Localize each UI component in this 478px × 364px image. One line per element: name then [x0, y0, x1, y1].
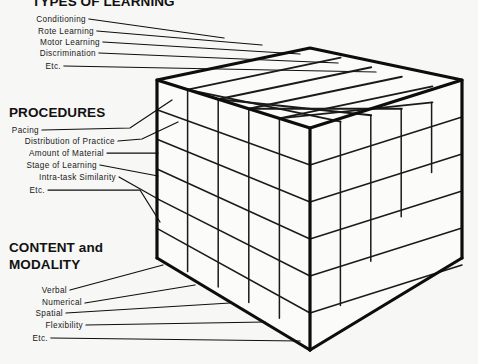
leader-line-numerical: [85, 285, 195, 303]
leader-line-intra-task-similarity: [119, 177, 158, 199]
heading-procedures: PROCEDURES: [9, 105, 105, 120]
leader-line-flexibility: [86, 322, 265, 325]
label-procedures-etc: Etc.: [29, 186, 45, 195]
label-flexibility: Flexibility: [45, 321, 83, 330]
label-distribution-of-practice: Distribution of Practice: [25, 137, 115, 146]
heading-content-and-modality-line1: CONTENT and: [9, 240, 103, 255]
labels-types-of-learning: Conditioning Rote Learning Motor Learnin…: [36, 15, 100, 71]
cube-taxonomy-diagram: TYPES OF LEARNING PROCEDURES CONTENT and…: [0, 0, 478, 364]
figure-canvas: TYPES OF LEARNING PROCEDURES CONTENT and…: [0, 0, 478, 364]
leader-line-procedures-etc: [48, 190, 160, 222]
leader-line-motor-learning: [103, 42, 300, 54]
label-pacing: Pacing: [12, 126, 39, 135]
label-stage-of-learning: Stage of Learning: [26, 161, 97, 170]
leader-line-verbal: [70, 265, 163, 290]
leader-line-conditioning: [89, 19, 224, 38]
label-rote-learning: Rote Learning: [38, 27, 94, 36]
label-content-etc: Etc.: [32, 334, 48, 343]
label-conditioning: Conditioning: [36, 15, 86, 24]
label-types-etc: Etc.: [45, 62, 61, 71]
leader-line-content-etc: [51, 338, 300, 341]
heading-content-and-modality-line2: MODALITY: [9, 257, 80, 272]
label-verbal: Verbal: [42, 286, 67, 295]
label-spatial: Spatial: [36, 309, 63, 318]
heading-types-of-learning: TYPES OF LEARNING: [32, 0, 175, 9]
label-motor-learning: Motor Learning: [40, 38, 100, 47]
label-amount-of-material: Amount of Material: [29, 149, 104, 158]
label-discrimination: Discrimination: [40, 49, 96, 58]
leader-line-spatial: [66, 303, 230, 313]
labels-procedures: Pacing Distribution of Practice Amount o…: [12, 126, 117, 195]
label-intra-task-similarity: Intra-task Similarity: [39, 173, 117, 182]
label-numerical: Numerical: [42, 298, 82, 307]
labels-content-modality: Verbal Numerical Spatial Flexibility Etc…: [32, 286, 83, 343]
